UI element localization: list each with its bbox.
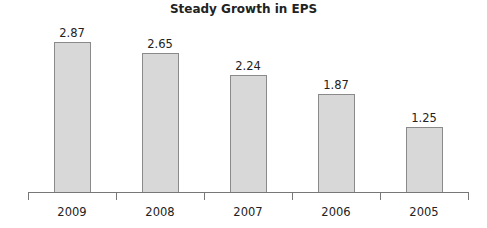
axis-tick: [380, 192, 381, 200]
category-label-2007: 2007: [204, 205, 292, 219]
category-label-2006: 2006: [292, 205, 380, 219]
value-label-2006: 1.87: [306, 78, 366, 92]
bar-2006: [318, 94, 355, 192]
value-label-2008: 2.65: [130, 37, 190, 51]
bar-2005: [406, 127, 443, 192]
bar-2008: [142, 53, 179, 192]
axis-tick: [292, 192, 293, 200]
value-label-2005: 1.25: [394, 111, 454, 125]
axis-tick: [468, 192, 469, 200]
axis-tick: [28, 192, 29, 200]
value-label-2009: 2.87: [42, 26, 102, 40]
plot-area: 2.8720092.6520082.2420071.8720061.252005: [0, 0, 487, 228]
bar-2007: [230, 75, 267, 192]
category-label-2005: 2005: [380, 205, 468, 219]
value-label-2007: 2.24: [218, 59, 278, 73]
axis-tick: [116, 192, 117, 200]
category-label-2008: 2008: [116, 205, 204, 219]
bar-2009: [54, 42, 91, 192]
x-axis: [28, 192, 468, 193]
axis-tick: [204, 192, 205, 200]
category-label-2009: 2009: [28, 205, 116, 219]
